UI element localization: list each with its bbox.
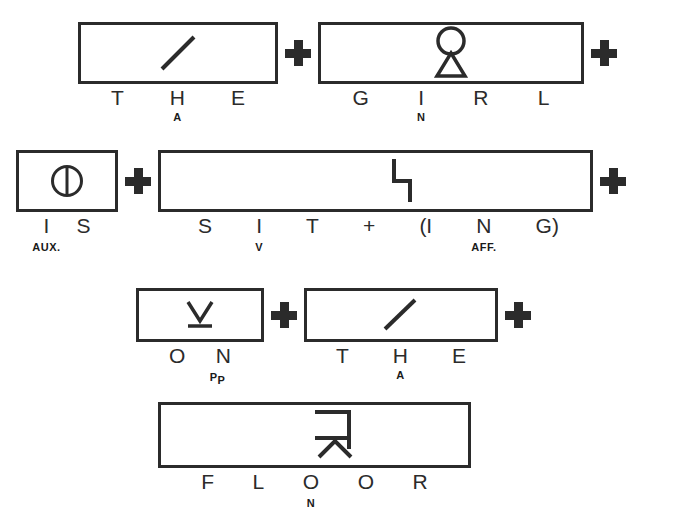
- cell-is[interactable]: IAUX. S: [16, 150, 118, 237]
- plus-connector-icon: [591, 40, 617, 66]
- caption-letter: E: [452, 344, 466, 367]
- caption-letter: L: [538, 86, 550, 109]
- caption-letter: IN: [418, 86, 424, 109]
- plus-connector-icon: [125, 168, 151, 194]
- cell-floor[interactable]: F L ON O R: [158, 402, 471, 493]
- plus-connector-icon: [271, 302, 297, 328]
- plus-connector-icon: [285, 40, 311, 66]
- cell-the-1[interactable]: T HA E: [78, 22, 278, 109]
- bracket-over-arrow-icon: [305, 405, 365, 465]
- caption-girl: G IN R L: [318, 84, 584, 109]
- caption-subscript: PP: [210, 366, 226, 389]
- caption-the-2: T HA E: [304, 342, 498, 367]
- caption-the-1: T HA E: [78, 84, 278, 109]
- caption-letter: HA: [170, 86, 185, 109]
- caption-subscript: N: [417, 106, 425, 129]
- plus-connector-icon: [600, 168, 626, 194]
- symbol-box-girl[interactable]: [318, 22, 584, 84]
- caption-letter: O: [358, 470, 374, 493]
- caption-letter: IV: [256, 214, 262, 237]
- caption-letter: G: [353, 86, 369, 109]
- caption-subscript: V: [255, 236, 263, 259]
- cell-the-2[interactable]: T HA E: [304, 288, 498, 367]
- caption-letter: R: [413, 470, 428, 493]
- caption-subscript: N: [307, 492, 315, 515]
- symbol-box-floor[interactable]: [158, 402, 471, 468]
- caption-letter: E: [231, 86, 245, 109]
- caption-letter: NAFF.: [476, 214, 491, 237]
- caption-letter: IAUX.: [44, 214, 50, 237]
- caption-letter: T: [306, 214, 319, 237]
- circle-with-vertical-bar-icon: [19, 153, 115, 209]
- symbol-box-the-1[interactable]: [78, 22, 278, 84]
- caption-letter: (I: [419, 214, 432, 237]
- caption-subscript: AFF.: [471, 236, 496, 259]
- v-over-underline-icon: [139, 291, 261, 339]
- caption-sitting: S IV T + (I NAFF. G): [158, 212, 593, 237]
- diagram-row-4: F L ON O R: [158, 402, 471, 493]
- caption-subscript: AUX.: [32, 236, 60, 259]
- symbol-box-the-2[interactable]: [304, 288, 498, 342]
- caption-letter: +: [363, 214, 375, 237]
- diagram-row-1: T HA E G IN R L: [78, 22, 617, 109]
- slash-stroke-icon: [81, 25, 275, 81]
- symbol-box-is[interactable]: [16, 150, 118, 212]
- caption-letter: NPP: [216, 344, 231, 367]
- step-stroke-icon: [384, 153, 430, 209]
- caption-is: IAUX. S: [16, 212, 118, 237]
- symbol-box-sitting[interactable]: [158, 150, 593, 212]
- caption-letter: S: [198, 214, 212, 237]
- symbol-box-on[interactable]: [136, 288, 264, 342]
- cell-on[interactable]: O NPP: [136, 288, 264, 367]
- caption-letter: R: [473, 86, 488, 109]
- diagram-row-3: O NPP T HA E: [136, 288, 531, 367]
- caption-letter: L: [253, 470, 265, 493]
- circle-over-triangle-icon: [321, 25, 581, 81]
- cell-sitting[interactable]: S IV T + (I NAFF. G): [158, 150, 593, 237]
- diagram-canvas: T HA E G IN R L: [0, 0, 673, 525]
- plus-connector-icon: [505, 302, 531, 328]
- caption-letter: G): [536, 214, 559, 237]
- caption-letter: ON: [303, 470, 319, 493]
- caption-letter: F: [201, 470, 214, 493]
- caption-on: O NPP: [136, 342, 264, 367]
- caption-letter: T: [336, 344, 349, 367]
- caption-floor: F L ON O R: [158, 468, 471, 493]
- slash-stroke-icon: [307, 291, 495, 339]
- caption-letter: S: [76, 214, 90, 237]
- caption-letter: T: [111, 86, 124, 109]
- caption-subscript: A: [396, 364, 404, 387]
- caption-letter: O: [169, 344, 185, 367]
- caption-letter: HA: [393, 344, 408, 367]
- diagram-row-2: IAUX. S S IV T + (I NAFF.: [16, 150, 626, 237]
- cell-girl[interactable]: G IN R L: [318, 22, 584, 109]
- caption-subscript: A: [173, 106, 181, 129]
